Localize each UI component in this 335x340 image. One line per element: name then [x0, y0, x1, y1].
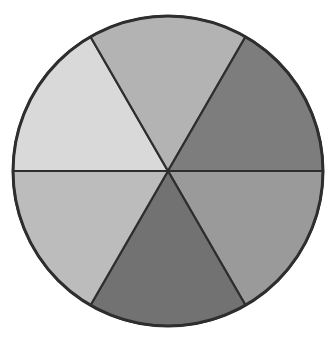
segmented-circle — [0, 0, 335, 340]
